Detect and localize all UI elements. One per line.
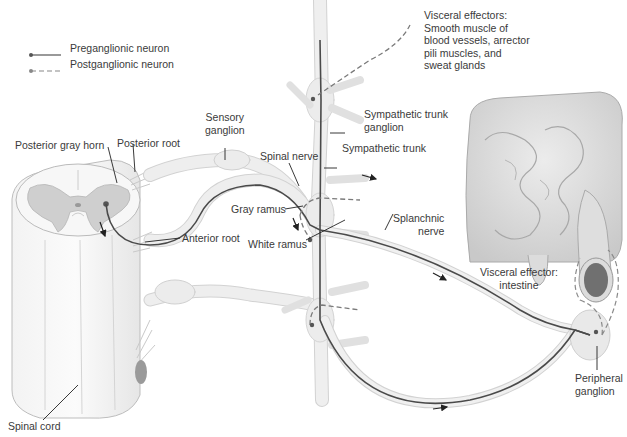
white-ramus-label: White ramus: [248, 238, 307, 251]
splanchnic-nerve-label: Splanchnic nerve: [393, 212, 444, 237]
spinal-cord: [12, 160, 155, 418]
visceral-effectors-label: Visceral effectors: Smooth muscle of blo…: [424, 9, 530, 72]
legend-preganglionic-label: Preganglionic neuron: [70, 42, 169, 55]
sensory-ganglion-label: Sensory ganglion: [205, 111, 245, 136]
intestine-illustration: [466, 92, 622, 335]
posterior-root-label: Posterior root: [117, 137, 180, 150]
spinal-nerve-label: Spinal nerve: [260, 150, 318, 163]
spinal-cord-label: Spinal cord: [8, 420, 61, 433]
gray-ramus-label: Gray ramus: [231, 203, 286, 216]
visceral-effector-intestine-label: Visceral effector: intestine: [480, 266, 558, 291]
sympathetic-trunk-label: Sympathetic trunk: [342, 142, 426, 155]
legend-postganglionic-label: Postganglionic neuron: [70, 58, 174, 71]
posterior-gray-horn-label: Posterior gray horn: [15, 139, 104, 152]
legend: [29, 53, 61, 73]
sympathetic-trunk-ganglion-label: Sympathetic trunk ganglion: [364, 108, 448, 133]
peripheral-ganglion-label: Peripheral ganglion: [575, 372, 623, 397]
anterior-root-label: Anterior root: [182, 232, 240, 245]
sensory-ganglion-shape: [214, 150, 250, 170]
